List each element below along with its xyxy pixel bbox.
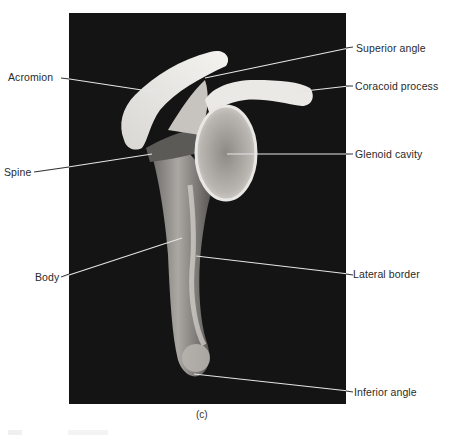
label-lateral-border: Lateral border bbox=[353, 268, 420, 280]
leader-body bbox=[63, 238, 182, 277]
leader-lateral-border bbox=[196, 256, 349, 274]
leader-acromion bbox=[63, 78, 155, 92]
label-inferior-angle: Inferior angle bbox=[354, 386, 417, 398]
glenoid-cavity-shape bbox=[196, 106, 256, 200]
label-coracoid-process: Coracoid process bbox=[355, 80, 438, 92]
scapula-figure: Acromion Spine Body Superior angle Corac… bbox=[0, 0, 456, 435]
label-superior-angle: Superior angle bbox=[356, 42, 426, 54]
label-spine: Spine bbox=[4, 166, 31, 178]
leader-inferior-angle bbox=[194, 374, 349, 391]
panel-caption: (c) bbox=[196, 409, 208, 420]
label-acromion: Acromion bbox=[8, 71, 53, 83]
label-glenoid-cavity: Glenoid cavity bbox=[355, 148, 422, 160]
scapula-illustration bbox=[0, 0, 456, 435]
cutoff-text-artifact bbox=[8, 430, 168, 435]
label-body: Body bbox=[35, 271, 59, 283]
